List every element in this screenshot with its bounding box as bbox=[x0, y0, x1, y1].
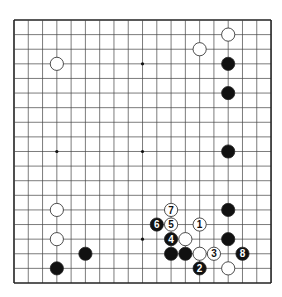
white-stone bbox=[50, 203, 63, 216]
move-number: 7 bbox=[168, 205, 174, 216]
black-stone bbox=[222, 145, 235, 158]
white-stone bbox=[179, 233, 192, 246]
move-number: 4 bbox=[168, 234, 174, 245]
move-number: 1 bbox=[197, 219, 203, 230]
black-stone bbox=[79, 247, 92, 260]
black-stone bbox=[222, 203, 235, 216]
black-stone bbox=[164, 247, 177, 260]
white-stone-move-1: 1 bbox=[193, 218, 206, 231]
black-stone bbox=[222, 233, 235, 246]
move-number: 2 bbox=[197, 263, 203, 274]
white-stone-move-5: 5 bbox=[164, 218, 177, 231]
white-stone-move-7: 7 bbox=[164, 203, 177, 216]
black-stone bbox=[179, 247, 192, 260]
move-number: 5 bbox=[168, 219, 174, 230]
white-stone bbox=[193, 43, 206, 56]
black-stone-move-8: 8 bbox=[236, 247, 249, 260]
move-number: 3 bbox=[211, 248, 217, 259]
move-number: 6 bbox=[154, 219, 160, 230]
white-stone bbox=[222, 28, 235, 41]
go-board: 12345678 bbox=[0, 0, 282, 297]
white-stone bbox=[50, 233, 63, 246]
white-stone bbox=[50, 57, 63, 70]
black-stone-move-6: 6 bbox=[150, 218, 163, 231]
black-stone-move-4: 4 bbox=[164, 233, 177, 246]
white-stone bbox=[222, 262, 235, 275]
white-stone bbox=[193, 247, 206, 260]
black-stone bbox=[222, 57, 235, 70]
star-point bbox=[141, 150, 144, 153]
move-number: 8 bbox=[240, 248, 246, 259]
star-point bbox=[141, 238, 144, 241]
black-stone-move-2: 2 bbox=[193, 262, 206, 275]
star-point bbox=[141, 62, 144, 65]
white-stone-move-3: 3 bbox=[207, 247, 220, 260]
black-stone bbox=[222, 86, 235, 99]
star-point bbox=[55, 150, 58, 153]
black-stone bbox=[50, 262, 63, 275]
